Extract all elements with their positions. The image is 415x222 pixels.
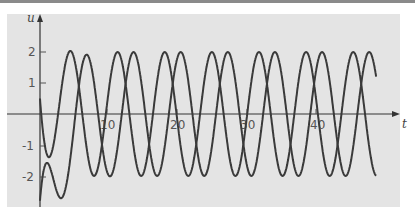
y-axis-label: u (27, 11, 35, 25)
y-tick-label: -2 (22, 170, 34, 184)
chart: u t 2 1 -1 -2 10 20 30 40 (0, 0, 415, 222)
x-axis-label: t (402, 117, 407, 131)
y-tick-label: 2 (28, 45, 36, 59)
series-2-line (40, 52, 376, 201)
y-tick-label: 1 (28, 76, 36, 90)
x-axis-arrow-icon (392, 111, 400, 117)
y-tick-label: -1 (22, 139, 34, 153)
x-ticks: 10 20 30 40 (100, 109, 325, 132)
x-tick-label: 10 (100, 118, 115, 132)
y-axis-arrow-icon (37, 14, 43, 22)
